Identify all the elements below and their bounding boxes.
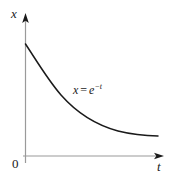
- equation-exponent: −t: [94, 82, 102, 91]
- equation-relation: =: [78, 83, 89, 97]
- exponential-decay-figure: x t 0 x=e−t: [0, 0, 175, 180]
- x-axis-label: t: [157, 160, 161, 173]
- curve-equation-annotation: x=e−t: [73, 84, 102, 96]
- origin-label: 0: [12, 157, 19, 170]
- y-axis-label: x: [11, 7, 17, 20]
